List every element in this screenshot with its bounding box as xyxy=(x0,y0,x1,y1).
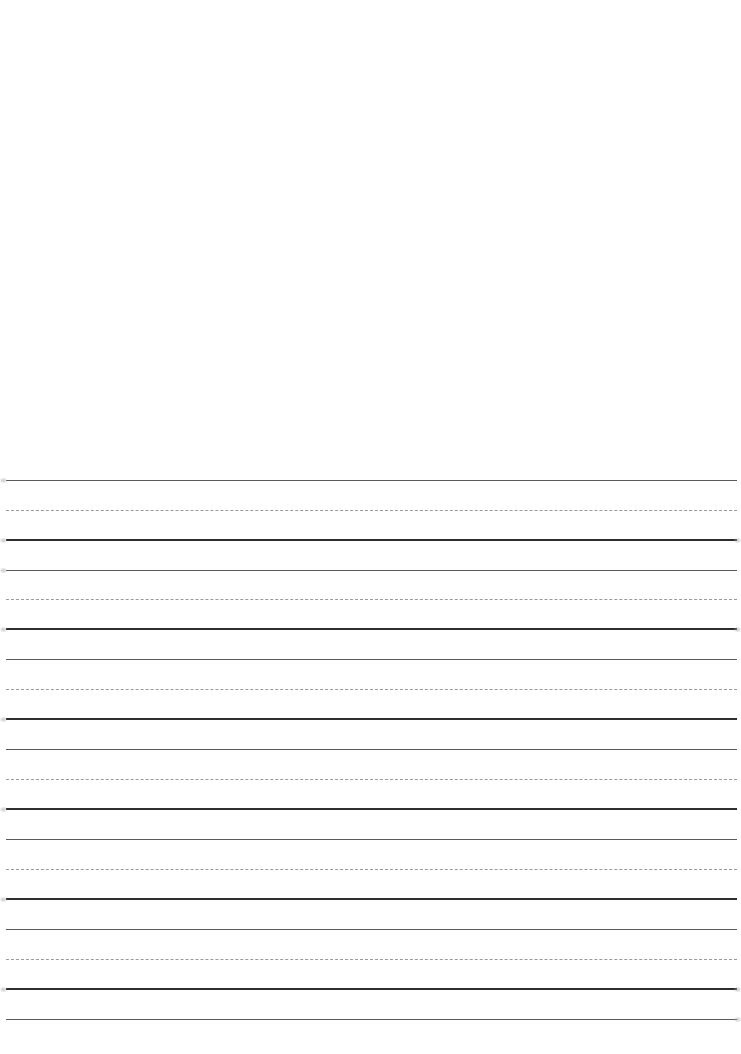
top-guide-line xyxy=(6,929,737,930)
baseline xyxy=(6,808,737,810)
scan-artifact xyxy=(734,538,741,543)
scan-artifact xyxy=(0,987,7,992)
mid-dashed-line xyxy=(6,779,737,780)
mid-dashed-line xyxy=(6,510,737,511)
baseline xyxy=(6,628,737,630)
mid-dashed-line xyxy=(6,689,737,690)
top-guide-line xyxy=(6,570,737,571)
top-guide-line xyxy=(6,480,737,481)
baseline xyxy=(6,988,737,990)
scan-artifact xyxy=(734,627,741,632)
scan-artifact xyxy=(734,987,741,992)
scan-artifact xyxy=(0,897,7,902)
top-guide-line xyxy=(6,839,737,840)
scan-artifact xyxy=(0,627,7,632)
scan-artifact xyxy=(0,717,7,722)
baseline xyxy=(6,718,737,720)
scan-artifact xyxy=(0,807,7,812)
scan-artifact xyxy=(0,568,7,573)
scan-artifact xyxy=(0,478,7,483)
final-guide-line xyxy=(6,1019,737,1020)
scan-artifact xyxy=(734,1017,741,1022)
baseline xyxy=(6,898,737,900)
scan-artifact xyxy=(0,538,7,543)
mid-dashed-line xyxy=(6,599,737,600)
mid-dashed-line xyxy=(6,959,737,960)
mid-dashed-line xyxy=(6,869,737,870)
top-guide-line xyxy=(6,749,737,750)
handwriting-lines xyxy=(0,0,741,1054)
baseline xyxy=(6,539,737,541)
top-guide-line xyxy=(6,659,737,660)
